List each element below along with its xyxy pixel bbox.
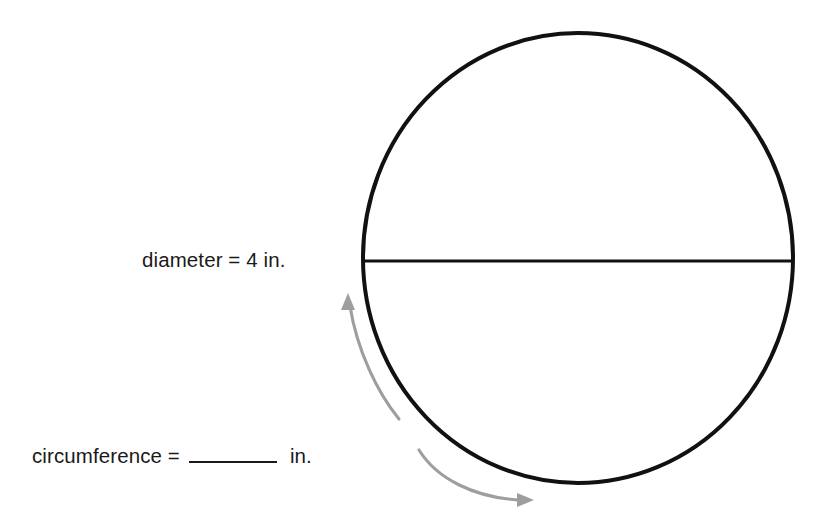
diameter-label: diameter = 4 in. — [142, 250, 285, 271]
circle-outline — [363, 33, 793, 483]
circumference-answer-blank[interactable] — [189, 461, 277, 463]
worksheet-figure-panel: diameter = 4 in. circumference = in. — [0, 0, 822, 528]
circumference-label: circumference = in. — [32, 446, 312, 467]
upper-arrow-shaft — [350, 306, 399, 419]
circumference-unit: in. — [290, 446, 312, 467]
lower-arrow-shaft — [419, 450, 518, 500]
lower-arrow-head — [517, 493, 534, 507]
circumference-prefix: circumference = — [32, 446, 180, 467]
upper-arrow-head — [341, 293, 355, 310]
